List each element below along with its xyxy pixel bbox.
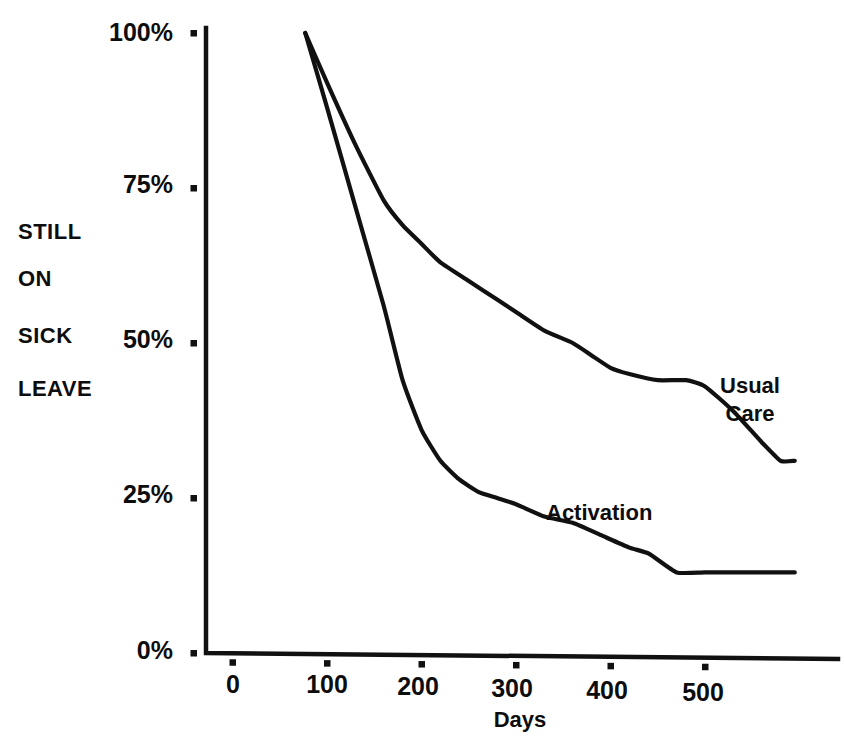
y-tick-label-75: 75% [53, 172, 173, 197]
y-axis-title-line-4: LEAVE [18, 378, 92, 400]
x-tick-dot [513, 662, 520, 669]
axis-lines [206, 28, 838, 659]
x-tick-dot [230, 659, 237, 666]
x-tick-dot [702, 664, 709, 671]
x-axis-title: Days [440, 709, 600, 731]
x-tick-label-200: 200 [373, 674, 463, 699]
y-tick-dot [191, 650, 198, 657]
chart-figure: 100% 75% 50% 25% 0% STILL ON SICK LEAVE … [0, 0, 844, 744]
y-axis-title-line-3: SICK [18, 325, 73, 347]
y-tick-label-0: 0% [53, 638, 173, 663]
y-tick-dot [191, 185, 198, 192]
x-tick-dot [419, 661, 426, 668]
y-tick-dot [191, 495, 198, 502]
y-tick-label-25: 25% [53, 482, 173, 507]
chart-plot-area [0, 0, 844, 744]
x-tick-dot [608, 663, 615, 670]
y-tick-label-100: 100% [53, 20, 173, 45]
x-tick-label-300: 300 [467, 676, 557, 701]
y-tick-dot [191, 30, 198, 37]
y-axis-title-line-2: ON [18, 268, 52, 290]
y-axis-tick-marks [191, 30, 198, 657]
series-label-activation: Activation [546, 500, 726, 527]
x-tick-label-400: 400 [562, 678, 652, 703]
y-tick-dot [191, 340, 198, 347]
x-tick-label-500: 500 [658, 680, 748, 705]
series-label-usual-care-line-2: Care [690, 401, 810, 428]
series-line-activation [305, 33, 795, 573]
series-label-usual-care-line-1: Usual [690, 373, 810, 400]
x-tick-label-100: 100 [282, 672, 372, 697]
y-axis-title-line-1: STILL [18, 221, 82, 243]
x-axis-tick-marks [230, 659, 709, 670]
x-tick-dot [324, 660, 331, 667]
x-tick-label-0: 0 [188, 672, 278, 697]
